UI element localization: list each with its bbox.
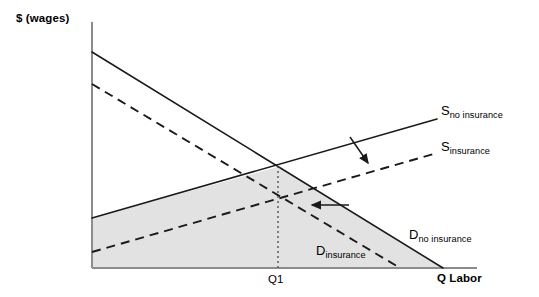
curve-label-sub: no insurance [418, 234, 471, 244]
y-axis-title: $ (wages) [16, 12, 69, 24]
curve-label-main: D [409, 227, 418, 242]
wage-bill-shaded-area [92, 167, 443, 268]
curve-label-sub: insurance [450, 146, 490, 156]
curve-label-main: S [441, 139, 450, 154]
curve-label-supply-no-insurance: Sno insurance [441, 104, 503, 117]
curve-label-main: D [316, 243, 325, 258]
x-axis-title: Q Labor [437, 272, 482, 284]
curve-label-demand-no-insurance: Dno insurance [409, 228, 472, 241]
curve-label-supply-insurance: Sinsurance [441, 140, 490, 153]
chart-figure: $ (wages) Q Labor Q1 Sno insurance Sinsu… [0, 0, 539, 297]
curve-label-sub: no insurance [450, 110, 503, 120]
x-tick-label-q1: Q1 [268, 273, 283, 285]
curve-label-main: S [441, 103, 450, 118]
curve-label-demand-insurance: Dinsurance [316, 244, 366, 257]
curve-label-sub: insurance [325, 250, 365, 260]
